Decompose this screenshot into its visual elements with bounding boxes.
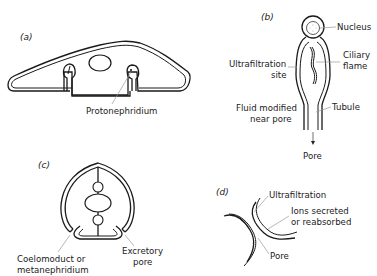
excretory-organs-figure: (a) Protonephridium (b)	[0, 0, 377, 276]
panel-c: (c) Coelomoduct or metanephridium Excret…	[17, 160, 163, 275]
pore-label-b: Pore	[303, 151, 322, 161]
nucleus-shape	[89, 55, 111, 71]
panel-a: (a) Protonephridium	[8, 32, 190, 116]
ions-label-1: Ions secreted	[291, 206, 349, 216]
panel-b: (b) Nucleus Ciliary flame Ultrafiltratio…	[229, 12, 372, 161]
panel-a-label: (a)	[20, 32, 33, 42]
ions-label-2: or reabsorbed	[291, 217, 351, 227]
ciliary-label-2: flame	[343, 61, 367, 71]
panel-b-label: (b)	[261, 12, 274, 22]
ultrafiltration-site-label-1: Ultrafiltration	[229, 59, 286, 69]
pore-label-d: Pore	[270, 251, 289, 261]
nucleus-label: Nucleus	[337, 22, 372, 32]
protonephridium-label: Protonephridium	[86, 106, 157, 116]
panel-d: (d) Ultrafiltration Ions secreted or rea…	[216, 187, 351, 266]
fluid-modified-label-2: near pore	[250, 114, 292, 124]
nucleus-icon	[307, 22, 320, 35]
ciliary-label-1: Ciliary	[343, 50, 370, 60]
pore-wall-left	[224, 215, 254, 262]
flame-cell-right	[127, 65, 139, 91]
panel-d-label: (d)	[216, 187, 229, 197]
ultrafiltration-label-d: Ultrafiltration	[269, 190, 326, 200]
panel-c-label: (c)	[38, 160, 50, 170]
coelomoduct-label-2: metanephridium	[17, 265, 89, 275]
excretory-pore-label-1: Excretory	[122, 246, 163, 256]
ciliary-flame	[310, 47, 317, 84]
excretory-pore-label-2: pore	[133, 257, 152, 267]
fluid-modified-label-1: Fluid modified	[236, 103, 297, 113]
coelomoduct-label-1: Coelomoduct or	[17, 254, 86, 264]
tubule-label: Tubule	[331, 102, 360, 112]
ultrafiltration-site-label-2: site	[271, 70, 287, 80]
